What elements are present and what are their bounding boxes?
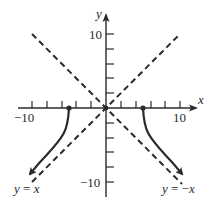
asymptote-label-y-equals-neg-x: y = −x (160, 181, 195, 196)
origin-dot (104, 106, 109, 111)
x-tick-label-10: 10 (173, 110, 186, 125)
y-tick-label-10: 10 (89, 27, 102, 42)
vertex-dot-left (66, 105, 71, 110)
x-axis (18, 101, 198, 112)
y-tick-label-neg10: −10 (80, 175, 100, 190)
x-axis-label: x (197, 92, 204, 107)
x-tick-label-neg10: −10 (14, 110, 34, 125)
vertex-dot-right (140, 105, 145, 110)
y-axis-label: y (94, 6, 102, 21)
asymptote-label-y-equals-x: y = x (12, 181, 40, 196)
chart-canvas: y x −10 10 10 −10 y = x y = −x (0, 0, 213, 208)
